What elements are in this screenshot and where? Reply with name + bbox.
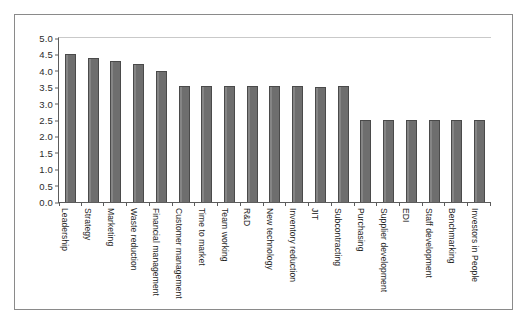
- x-axis-tick-label: EDI: [401, 208, 411, 222]
- bar: [110, 61, 121, 202]
- bar-category: New technology: [264, 38, 287, 202]
- x-axis-tick: [217, 202, 218, 206]
- bar-category: Purchasing: [355, 38, 378, 202]
- x-axis-tick: [194, 202, 195, 206]
- x-axis-tick: [490, 202, 491, 206]
- x-axis-tick-label: Inventory reduction: [288, 208, 298, 282]
- bar-category: Strategy: [82, 38, 105, 202]
- x-axis-tick-label: R&D: [242, 208, 252, 226]
- x-axis-tick-label: Investors in People: [470, 208, 480, 282]
- x-axis-tick-label: Time to market: [197, 208, 207, 266]
- bar: [429, 120, 440, 202]
- y-axis-tick-label: 1.5: [39, 147, 59, 158]
- bar-category: JIT: [309, 38, 332, 202]
- y-axis-tick-label: 0.5: [39, 180, 59, 191]
- bar-category: Benchmarking: [445, 38, 468, 202]
- y-axis-tick-label: 5.0: [39, 33, 59, 44]
- x-axis-tick: [331, 202, 332, 206]
- bar: [179, 86, 190, 202]
- bar: [292, 86, 303, 202]
- x-axis-tick: [399, 202, 400, 206]
- x-axis-tick-label: Customer management: [174, 208, 184, 299]
- bar-category: Waste reduction: [127, 38, 150, 202]
- x-axis-tick: [354, 202, 355, 206]
- x-axis-tick-label: JIT: [310, 208, 320, 220]
- bar: [474, 120, 485, 202]
- x-axis-tick-label: Strategy: [83, 208, 93, 240]
- x-axis-tick-label: New technology: [265, 208, 275, 270]
- x-axis-tick: [263, 202, 264, 206]
- figure-frame: 0.00.51.01.52.02.53.03.54.04.55.0 Leader…: [14, 14, 513, 310]
- bar-series: LeadershipStrategyMarketingWaste reducti…: [59, 38, 491, 202]
- x-axis-tick: [149, 202, 150, 206]
- x-axis-tick-label: Subcontracting: [333, 208, 343, 266]
- x-axis-tick-label: Benchmarking: [447, 208, 457, 264]
- chart-plot-area: 0.00.51.01.52.02.53.03.54.04.55.0 Leader…: [58, 37, 491, 203]
- bar-category: R&D: [241, 38, 264, 202]
- y-axis-tick-label: 2.0: [39, 131, 59, 142]
- bar-category: Time to market: [195, 38, 218, 202]
- x-axis-tick-label: Financial management: [151, 208, 161, 296]
- x-axis-tick-label: Team working: [220, 208, 230, 262]
- bar-category: Staff development: [423, 38, 446, 202]
- bar-category: Marketing: [104, 38, 127, 202]
- y-axis-tick-label: 0.0: [39, 197, 59, 208]
- bar: [156, 71, 167, 202]
- y-axis-tick-label: 1.0: [39, 164, 59, 175]
- bar: [360, 120, 371, 202]
- bar-category: Inventory reduction: [286, 38, 309, 202]
- bar: [65, 54, 76, 202]
- x-axis-tick: [422, 202, 423, 206]
- bar-category: Investors in People: [468, 38, 491, 202]
- bar: [269, 86, 280, 202]
- bar: [224, 86, 235, 202]
- x-axis-tick: [59, 202, 60, 206]
- bar-category: Supplier development: [377, 38, 400, 202]
- bar: [383, 120, 394, 202]
- bar: [133, 64, 144, 202]
- bar: [201, 86, 212, 202]
- bar: [451, 120, 462, 202]
- x-axis-tick: [376, 202, 377, 206]
- y-axis-tick-label: 4.0: [39, 65, 59, 76]
- bar-category: EDI: [400, 38, 423, 202]
- x-axis-tick: [81, 202, 82, 206]
- bar-category: Customer management: [173, 38, 196, 202]
- x-axis-tick-label: Marketing: [106, 208, 116, 246]
- x-axis-tick: [126, 202, 127, 206]
- x-axis-tick: [308, 202, 309, 206]
- x-axis-tick: [444, 202, 445, 206]
- x-axis-tick: [103, 202, 104, 206]
- x-axis-tick-label: Purchasing: [356, 208, 366, 252]
- x-axis-tick-label: Supplier development: [379, 208, 389, 292]
- bar: [315, 87, 326, 202]
- bar: [406, 120, 417, 202]
- bar-category: Team working: [218, 38, 241, 202]
- x-axis-tick-label: Waste reduction: [129, 208, 139, 271]
- x-axis-tick: [172, 202, 173, 206]
- y-axis-tick-label: 2.5: [39, 115, 59, 126]
- x-axis-tick-label: Staff development: [424, 208, 434, 278]
- bar-category: Subcontracting: [332, 38, 355, 202]
- y-axis-tick-label: 4.5: [39, 49, 59, 60]
- bar-category: Financial management: [150, 38, 173, 202]
- bar: [338, 86, 349, 202]
- bar-category: Leadership: [59, 38, 82, 202]
- y-axis-tick-label: 3.5: [39, 82, 59, 93]
- y-axis-tick-label: 3.0: [39, 98, 59, 109]
- x-axis-tick: [285, 202, 286, 206]
- bar: [88, 58, 99, 202]
- x-axis-tick-label: Leadership: [60, 208, 70, 251]
- x-axis-tick: [467, 202, 468, 206]
- x-axis-tick: [240, 202, 241, 206]
- bar: [247, 86, 258, 202]
